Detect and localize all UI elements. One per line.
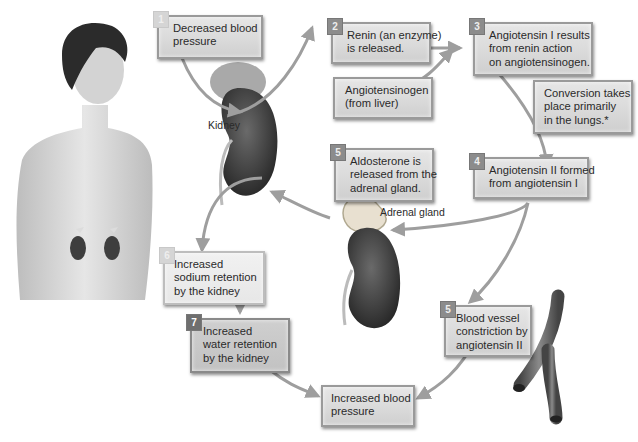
step-number-badge: 5	[440, 301, 456, 318]
step-text: Angiotensin II formed	[489, 164, 581, 177]
result-increased-blood-pressure: Increased blood pressure	[321, 385, 415, 427]
adrenal-gland-label: Adrenal gland	[380, 206, 445, 218]
step-number-badge: 3	[469, 18, 485, 35]
note-text: place primarily	[544, 100, 625, 113]
step-text: by the kidney	[174, 285, 257, 298]
step-number-badge: 1	[153, 11, 169, 28]
step-number-badge: 5	[330, 144, 346, 161]
step-text: Aldosterone is	[350, 155, 426, 168]
step-text: pressure	[173, 35, 255, 48]
step-number-badge: 4	[469, 153, 485, 170]
lung-conversion-note: Conversion takes place primarily in the …	[533, 80, 633, 134]
angiotensinogen-source: Angiotensinogen (from liver)	[333, 77, 433, 119]
step-text: released from the	[350, 168, 426, 181]
step-2-renin-released: 2 Renin (an enzyme) is released.	[331, 22, 431, 64]
step-5-blood-vessel-constriction: 5 Blood vessel constriction by angiotens…	[444, 305, 532, 357]
step-text: Angiotensinogen	[345, 84, 425, 97]
step-text: Increased blood	[331, 392, 407, 405]
human-torso-illustration	[17, 23, 153, 300]
step-text: Renin (an enzyme)	[347, 29, 423, 42]
step-text: Angiotensin I results	[489, 29, 585, 42]
step-7-water-retention: 7 Increased water retention by the kidne…	[190, 318, 290, 373]
step-text: Decreased blood	[173, 22, 255, 35]
step-4-angiotensin-ii: 4 Angiotensin II formed from angiotensin…	[473, 157, 589, 199]
kidney-renin-illustration	[210, 62, 277, 205]
step-text: from renin action	[489, 42, 585, 55]
step-text: pressure	[331, 405, 407, 418]
step-text: from angiotensin I	[489, 177, 581, 190]
raas-diagram: Kidney Adrenal gland 1 Decreased blood p…	[0, 0, 638, 442]
step-text: on angiotensinogen.	[489, 56, 585, 69]
kidney-label: Kidney	[208, 119, 240, 131]
step-3-angiotensin-i: 3 Angiotensin I results from renin actio…	[473, 22, 593, 76]
step-text: (from liver)	[345, 97, 425, 110]
step-number-badge: 2	[327, 18, 343, 35]
step-text: Increased	[203, 325, 282, 338]
step-text: sodium retention	[174, 271, 257, 284]
step-5-aldosterone-released: 5 Aldosterone is released from the adren…	[334, 148, 434, 202]
step-text: angiotensin II	[456, 339, 524, 352]
note-text: in the lungs.*	[544, 114, 625, 127]
step-text: Increased	[174, 258, 257, 271]
step-text: by the kidney	[203, 352, 282, 365]
step-text: water retention	[203, 338, 282, 351]
step-6-sodium-retention: 6 Increased sodium retention by the kidn…	[163, 251, 265, 305]
step-text: constriction by	[456, 325, 524, 338]
step-number-badge: 7	[186, 314, 202, 331]
note-text: Conversion takes	[544, 87, 625, 100]
step-1-decreased-blood-pressure: 1 Decreased blood pressure	[157, 15, 263, 59]
step-text: is released.	[347, 42, 423, 55]
step-number-badge: 6	[159, 247, 175, 264]
step-text: Blood vessel	[456, 312, 524, 325]
step-text: adrenal gland.	[350, 182, 426, 195]
